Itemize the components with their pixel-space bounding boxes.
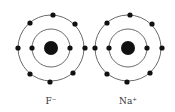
fluoride-ion-diagram bbox=[15, 12, 87, 84]
nucleus bbox=[44, 41, 58, 55]
ion-diagrams bbox=[0, 0, 175, 112]
fluoride-label: F⁻ bbox=[31, 96, 71, 106]
sodium-ion-diagram bbox=[92, 12, 164, 84]
nucleus bbox=[121, 41, 135, 55]
sodium-label: Na⁺ bbox=[108, 96, 148, 106]
